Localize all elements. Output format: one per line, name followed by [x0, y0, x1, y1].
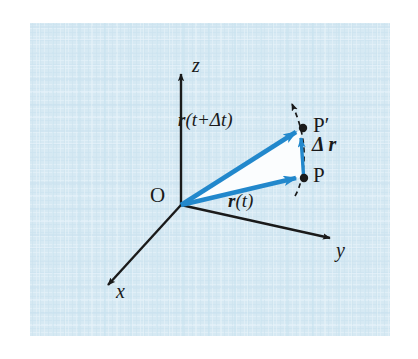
- figure-container: z y x O P P′ r(t) r(t+Δt) Δ r: [0, 0, 418, 359]
- vector-arg-t-plus-delta-t: (t+Δt): [185, 109, 232, 130]
- axis-label-x: x: [116, 281, 125, 301]
- vector-label-r-of-t-plus-delta-t: r(t+Δt): [178, 110, 233, 129]
- point-P-dot: [300, 174, 308, 182]
- vector-arg-t: (t): [235, 190, 253, 211]
- origin-label: O: [150, 185, 165, 206]
- point-label-P: P: [313, 165, 325, 186]
- vector-label-delta-r: Δ r: [312, 134, 336, 154]
- background-plate: [30, 23, 390, 336]
- vector-diagram-canvas: [0, 0, 418, 359]
- point-P-prime-dot: [299, 124, 307, 132]
- axis-label-y: y: [336, 240, 345, 260]
- axis-label-z: z: [192, 55, 200, 75]
- vector-label-r-of-t: r(t): [228, 191, 253, 210]
